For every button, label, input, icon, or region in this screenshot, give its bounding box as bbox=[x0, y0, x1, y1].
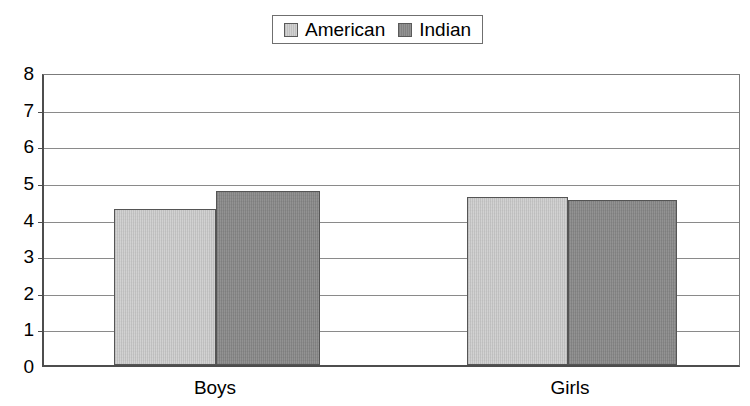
bar-boys-american[interactable] bbox=[114, 209, 216, 365]
bar-chart: American Indian 8 7 6 5 4 3 2 1 0 Boys G… bbox=[0, 0, 750, 406]
x-tick-label-girls: Girls bbox=[500, 378, 640, 397]
plot-area bbox=[42, 74, 740, 367]
tick-mark-7 bbox=[38, 112, 44, 113]
y-tick-label-0: 0 bbox=[8, 357, 34, 376]
tick-mark-3 bbox=[38, 258, 44, 259]
legend-label-indian: Indian bbox=[419, 20, 471, 39]
dark-gray-swatch-icon bbox=[398, 23, 412, 37]
bar-boys-indian[interactable] bbox=[216, 191, 320, 365]
gridline-5 bbox=[44, 185, 739, 186]
legend-entry-american[interactable]: American bbox=[284, 20, 385, 39]
tick-mark-5 bbox=[38, 185, 44, 186]
y-tick-label-6: 6 bbox=[8, 137, 34, 156]
gridline-6 bbox=[44, 148, 739, 149]
gridline-7 bbox=[44, 112, 739, 113]
tick-mark-6 bbox=[38, 148, 44, 149]
y-tick-label-1: 1 bbox=[8, 320, 34, 339]
legend-entry-indian[interactable]: Indian bbox=[398, 20, 471, 39]
x-tick-label-boys: Boys bbox=[145, 378, 285, 397]
y-axis: 8 7 6 5 4 3 2 1 0 bbox=[0, 74, 34, 367]
tick-mark-2 bbox=[38, 295, 44, 296]
tick-mark-1 bbox=[38, 331, 44, 332]
y-tick-label-8: 8 bbox=[8, 64, 34, 83]
bar-girls-indian[interactable] bbox=[568, 200, 677, 365]
y-tick-label-3: 3 bbox=[8, 247, 34, 266]
y-tick-label-2: 2 bbox=[8, 284, 34, 303]
bar-girls-american[interactable] bbox=[467, 197, 568, 365]
legend-label-american: American bbox=[305, 20, 385, 39]
y-tick-label-4: 4 bbox=[8, 211, 34, 230]
light-gray-swatch-icon bbox=[284, 23, 298, 37]
chart-legend: American Indian bbox=[272, 15, 483, 44]
y-tick-label-5: 5 bbox=[8, 174, 34, 193]
y-tick-label-7: 7 bbox=[8, 101, 34, 120]
tick-mark-4 bbox=[38, 222, 44, 223]
